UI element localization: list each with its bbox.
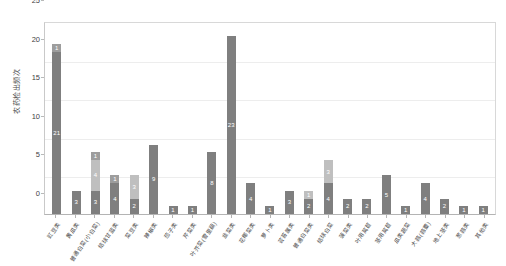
bar-segment[interactable]: 3 bbox=[324, 160, 333, 183]
bar-column[interactable]: 23 bbox=[222, 23, 241, 214]
y-tick-label: 5 bbox=[10, 150, 40, 159]
bar-segment[interactable]: 3 bbox=[130, 175, 139, 198]
bar-value-label: 2 bbox=[365, 203, 368, 209]
bar-segment[interactable]: 1 bbox=[479, 206, 488, 214]
bar-segment[interactable]: 4 bbox=[110, 183, 119, 214]
stacked-bar[interactable]: 1 bbox=[459, 206, 468, 214]
x-axis-label: 芹菜类 bbox=[181, 220, 198, 240]
x-label-cell: 菜豆类 bbox=[124, 218, 143, 266]
bar-column[interactable]: 4 bbox=[241, 23, 260, 214]
bar-column[interactable]: 2 bbox=[435, 23, 454, 214]
bar-segment[interactable]: 3 bbox=[285, 191, 294, 214]
stacked-bar[interactable]: 1 bbox=[188, 206, 197, 214]
bar-value-label: 4 bbox=[249, 196, 252, 202]
stacked-bar[interactable]: 2 bbox=[362, 199, 371, 214]
stacked-bar[interactable]: 12 bbox=[304, 191, 313, 214]
bar-segment[interactable]: 23 bbox=[227, 36, 236, 214]
bar-column[interactable]: 1 bbox=[183, 23, 202, 214]
x-label-cell: 茄子类 bbox=[163, 218, 182, 266]
bar-column[interactable]: 143 bbox=[86, 23, 105, 214]
bar-column[interactable]: 5 bbox=[377, 23, 396, 214]
bar-column[interactable]: 121 bbox=[47, 23, 66, 214]
stacked-bar[interactable]: 3 bbox=[72, 191, 81, 214]
bar-value-label: 3 bbox=[288, 199, 291, 205]
bar-value-label: 3 bbox=[94, 199, 97, 205]
bar-column[interactable]: 14 bbox=[105, 23, 124, 214]
bar-segment[interactable]: 1 bbox=[91, 152, 100, 160]
bar-column[interactable]: 1 bbox=[396, 23, 415, 214]
x-label-cell: 豇豆类 bbox=[46, 218, 65, 266]
bar-column[interactable]: 1 bbox=[474, 23, 493, 214]
bar-segment[interactable]: 1 bbox=[188, 206, 197, 214]
bar-segment[interactable]: 2 bbox=[130, 199, 139, 214]
bar-segment[interactable]: 3 bbox=[91, 191, 100, 214]
stacked-bar[interactable]: 5 bbox=[382, 175, 391, 214]
bar-segment[interactable]: 1 bbox=[169, 206, 178, 214]
stacked-bar[interactable]: 14 bbox=[110, 175, 119, 214]
stacked-bar[interactable]: 143 bbox=[91, 152, 100, 214]
bar-column[interactable]: 1 bbox=[163, 23, 182, 214]
bar-column[interactable]: 1 bbox=[260, 23, 279, 214]
stacked-bar[interactable]: 3 bbox=[285, 191, 294, 214]
stacked-bar[interactable]: 23 bbox=[227, 36, 236, 214]
stacked-bar[interactable]: 1 bbox=[169, 206, 178, 214]
stacked-bar[interactable]: 2 bbox=[440, 199, 449, 214]
bar-column[interactable]: 1 bbox=[454, 23, 473, 214]
bar-segment[interactable]: 1 bbox=[52, 44, 61, 52]
bar-segment[interactable]: 4 bbox=[91, 160, 100, 191]
bar-column[interactable]: 32 bbox=[125, 23, 144, 214]
bar-column[interactable]: 9 bbox=[144, 23, 163, 214]
bar-segment[interactable]: 4 bbox=[421, 183, 430, 214]
bar-column[interactable]: 2 bbox=[357, 23, 376, 214]
stacked-bar[interactable]: 2 bbox=[343, 199, 352, 214]
stacked-bar[interactable]: 1 bbox=[265, 206, 274, 214]
stacked-bar[interactable]: 4 bbox=[421, 183, 430, 214]
bar-segment[interactable]: 8 bbox=[207, 152, 216, 214]
bar-column[interactable]: 8 bbox=[202, 23, 221, 214]
bar-segment[interactable]: 4 bbox=[324, 183, 333, 214]
bar-segment[interactable]: 5 bbox=[382, 175, 391, 214]
bar-column[interactable]: 34 bbox=[318, 23, 337, 214]
bar-segment[interactable]: 3 bbox=[72, 191, 81, 214]
bar-segment[interactable]: 21 bbox=[52, 52, 61, 214]
stacked-bar[interactable]: 4 bbox=[246, 183, 255, 214]
bar-segment[interactable]: 1 bbox=[401, 206, 410, 214]
bar-segment[interactable]: 2 bbox=[362, 199, 371, 214]
bar-segment[interactable]: 1 bbox=[110, 175, 119, 183]
bar-segment[interactable]: 2 bbox=[440, 199, 449, 214]
stacked-bar[interactable]: 9 bbox=[149, 145, 158, 214]
bar-segment[interactable]: 4 bbox=[246, 183, 255, 214]
bar-value-label: 3 bbox=[74, 199, 77, 205]
stacked-bar[interactable]: 8 bbox=[207, 152, 216, 214]
stacked-bar[interactable]: 34 bbox=[324, 160, 333, 214]
bar-value-label: 4 bbox=[423, 196, 426, 202]
bar-column[interactable]: 3 bbox=[280, 23, 299, 214]
bar-segment[interactable]: 2 bbox=[343, 199, 352, 214]
stacked-bar[interactable]: 1 bbox=[479, 206, 488, 214]
x-label-cell: 其他类 bbox=[475, 218, 494, 266]
y-tick-label: 0 bbox=[10, 189, 40, 198]
bar-value-label: 1 bbox=[482, 207, 485, 213]
bar-segment[interactable]: 1 bbox=[265, 206, 274, 214]
x-axis-label: 豇豆类 bbox=[45, 220, 62, 240]
x-axis-label: 其他类 bbox=[474, 220, 491, 240]
x-axis-label: 辣椒类 bbox=[142, 220, 159, 240]
bar-segment[interactable]: 1 bbox=[304, 191, 313, 199]
stacked-bar[interactable]: 121 bbox=[52, 44, 61, 214]
bar-segment[interactable]: 2 bbox=[304, 199, 313, 214]
x-label-cell: 叶芥菜(雪里蕻) bbox=[202, 218, 221, 266]
stacked-bar[interactable]: 32 bbox=[130, 175, 139, 214]
bar-column[interactable]: 2 bbox=[338, 23, 357, 214]
bar-column[interactable]: 3 bbox=[66, 23, 85, 214]
x-axis-label: 菠菜类 bbox=[337, 220, 354, 240]
stacked-bar[interactable]: 1 bbox=[401, 206, 410, 214]
bar-value-label: 3 bbox=[326, 169, 329, 175]
bar-column[interactable]: 4 bbox=[415, 23, 434, 214]
bar-segment[interactable]: 9 bbox=[149, 145, 158, 214]
bar-segment[interactable]: 1 bbox=[459, 206, 468, 214]
x-label-cell: 韭菜类 bbox=[221, 218, 240, 266]
x-label-cell: 花椰菜类 bbox=[241, 218, 260, 266]
bar-value-label: 3 bbox=[133, 184, 136, 190]
bar-column[interactable]: 12 bbox=[299, 23, 318, 214]
bar-value-label: 1 bbox=[462, 207, 465, 213]
